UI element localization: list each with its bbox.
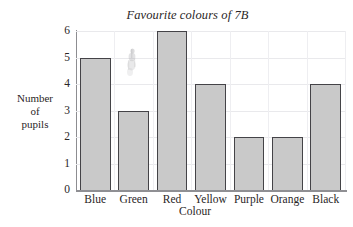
vertical-gridline-7 (345, 31, 346, 190)
chart-title: Favourite colours of 7B (0, 8, 353, 23)
bar-chart-figure: ng graph Favourite colours of 7B 0123456… (0, 0, 353, 227)
cropped-text-fragment: ng graph (22, 0, 64, 4)
x-tick-label-black: Black (296, 193, 353, 205)
plot-area (76, 31, 345, 190)
bar-black (310, 84, 341, 190)
y-tick-label-5: 5 (54, 51, 70, 63)
bar-blue (80, 58, 111, 191)
y-tick-label-4: 4 (54, 77, 70, 89)
chart-title-text: Favourite colours of 7B (126, 8, 248, 23)
y-tick-label-6: 6 (54, 24, 70, 36)
bar-yellow (195, 84, 226, 190)
y-tick-label-2: 2 (54, 130, 70, 142)
bar-red (157, 31, 188, 190)
y-axis-title-line-3: pupils (2, 118, 68, 131)
bar-orange (272, 137, 303, 190)
x-axis-line (76, 190, 347, 192)
y-axis-title-line-1: Number (2, 92, 68, 105)
bar-purple (234, 137, 265, 190)
bar-green (118, 111, 149, 191)
y-tick-label-1: 1 (54, 157, 70, 169)
x-axis-title: Colour (150, 205, 240, 217)
bars-group (76, 31, 345, 190)
y-axis-title: Number of pupils (2, 92, 68, 131)
y-axis-title-line-2: of (2, 105, 68, 118)
